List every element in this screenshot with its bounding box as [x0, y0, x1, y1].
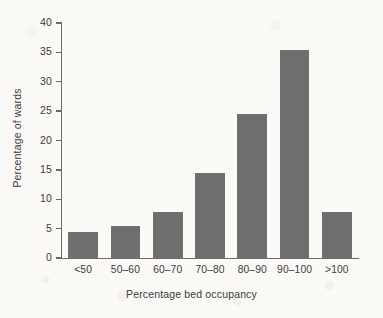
bar	[280, 50, 310, 258]
x-axis-tick-label: 70–80	[189, 264, 231, 275]
y-axis-tick	[56, 140, 62, 141]
bar	[237, 114, 267, 258]
y-axis-tick-label: 40	[16, 16, 52, 28]
x-axis-tick-label: <50	[62, 264, 104, 275]
x-axis-title: Percentage bed occupancy	[0, 288, 383, 300]
x-axis-tick-label: >100	[316, 264, 358, 275]
y-axis-tick	[56, 22, 62, 23]
y-axis-tick	[56, 199, 62, 200]
x-axis-line	[56, 258, 359, 259]
y-axis-tick-label: 5	[16, 222, 52, 234]
bar	[195, 173, 225, 258]
bar-chart-figure: 0510152025303540 <5050–6060–7070–8080–90…	[0, 0, 383, 318]
x-axis-tick-label: 90–100	[273, 264, 315, 275]
bar	[322, 212, 352, 258]
y-axis-tick	[56, 52, 62, 53]
y-axis-tick	[56, 81, 62, 82]
y-axis-title: Percentage of wards	[11, 58, 23, 218]
y-axis-tick-label: 35	[16, 45, 52, 57]
bar	[153, 212, 183, 258]
y-axis-tick	[56, 110, 62, 111]
x-axis-tick-label: 80–90	[231, 264, 273, 275]
bar	[68, 232, 98, 258]
x-axis-tick-label: 60–70	[147, 264, 189, 275]
y-axis-tick	[56, 169, 62, 170]
y-axis-tick	[56, 228, 62, 229]
bar	[111, 226, 141, 258]
y-axis-tick	[56, 257, 62, 258]
y-axis-tick-label: 0	[16, 251, 52, 263]
x-axis-tick-label: 50–60	[104, 264, 146, 275]
